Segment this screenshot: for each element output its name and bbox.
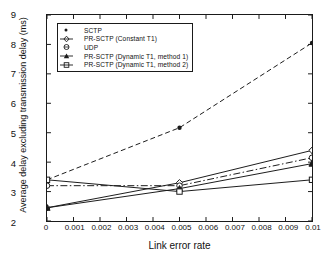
circle-marker-icon: [60, 43, 82, 51]
data-point: [177, 126, 181, 130]
data-point: [47, 183, 50, 189]
page-caption-fragment: [3, 253, 73, 262]
legend-label: PR-SCTP (Constant T1): [82, 35, 157, 42]
x-tick-label: 0.01: [297, 224, 329, 232]
legend-label: PR-SCTP (Dynamic T1, method 1): [82, 53, 188, 60]
legend-item-pr-sctp-dynamic-method-2: PR-SCTP (Dynamic T1, method 2): [60, 60, 188, 69]
triangle-marker-icon: [60, 52, 82, 60]
legend-label: SCTP: [82, 27, 102, 34]
y-tick-label: 4: [0, 159, 16, 169]
figure-container: 9 8 7 6 5 4 3 2 0 0.001 0.002 0.003 0.00…: [0, 0, 334, 265]
data-point: [309, 155, 312, 161]
x-axis-label: Link error rate: [46, 240, 313, 251]
data-point: [177, 189, 182, 194]
square-marker-icon: [60, 61, 82, 69]
data-point: [47, 177, 50, 182]
y-tick-label: 9: [0, 10, 16, 20]
legend-item-pr-sctp-dynamic-method-1: PR-SCTP (Dynamic T1, method 1): [60, 52, 188, 61]
series-pr-sctp-dynamic-t1-method-1: [47, 161, 312, 211]
data-point: [309, 161, 312, 167]
data-point: [309, 147, 312, 153]
y-tick-label: 5: [0, 129, 16, 139]
legend-label: PR-SCTP (Dynamic T1, method 2): [82, 61, 188, 68]
y-tick-label: 6: [0, 99, 16, 109]
y-tick-label: 3: [0, 188, 16, 198]
diamond-marker-icon: [60, 35, 82, 43]
y-axis-label: Average delay excluding transmission del…: [18, 0, 28, 230]
y-tick-label: 2: [0, 218, 16, 228]
legend-label: UDP: [82, 44, 98, 51]
y-tick-label: 8: [0, 40, 16, 50]
legend-item-udp: UDP: [60, 43, 188, 52]
legend-item-pr-sctp-constant-t1: PR-SCTP (Constant T1): [60, 35, 188, 44]
dot-marker-icon: [60, 26, 82, 34]
series-pr-sctp-constant-t1: [47, 147, 312, 211]
data-point: [309, 177, 312, 182]
legend: SCTP PR-SCTP (Constant T1) UDP: [57, 23, 193, 72]
legend-item-sctp: SCTP: [60, 26, 188, 35]
y-tick-label: 7: [0, 69, 16, 79]
x-tick-label: 0: [36, 224, 56, 232]
